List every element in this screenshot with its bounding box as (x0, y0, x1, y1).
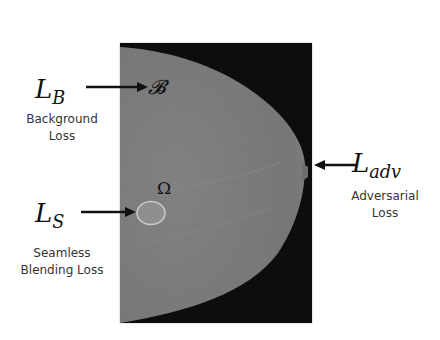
adversarial-loss-symbol: Ladv (352, 150, 401, 182)
loss-subscript: S (52, 212, 64, 232)
arrow-right-icon (81, 206, 136, 218)
omega-region-symbol: Ω (157, 180, 171, 197)
caption-line: Adversarial (340, 188, 430, 205)
caption-line: Loss (340, 205, 430, 222)
omega-region-outline (137, 202, 165, 225)
background-loss-symbol: LB (35, 76, 65, 108)
caption-line: Seamless (12, 245, 112, 262)
loss-subscript: adv (369, 162, 401, 182)
seamless-loss-symbol: LS (35, 200, 64, 232)
arrow-right-icon (86, 81, 148, 93)
caption-line: Loss (20, 128, 104, 145)
adversarial-loss-caption: Adversarial Loss (340, 188, 430, 222)
loss-L: L (35, 74, 52, 104)
background-region-symbol: 𝓑 (148, 77, 166, 97)
background-loss-caption: Background Loss (20, 111, 104, 145)
seamless-loss-caption: Seamless Blending Loss (12, 245, 112, 279)
loss-L: L (352, 148, 369, 178)
caption-line: Blending Loss (12, 262, 112, 279)
arrow-left-icon (314, 159, 356, 171)
caption-line: Background (20, 111, 104, 128)
loss-subscript: B (52, 88, 65, 108)
loss-L: L (35, 198, 52, 228)
